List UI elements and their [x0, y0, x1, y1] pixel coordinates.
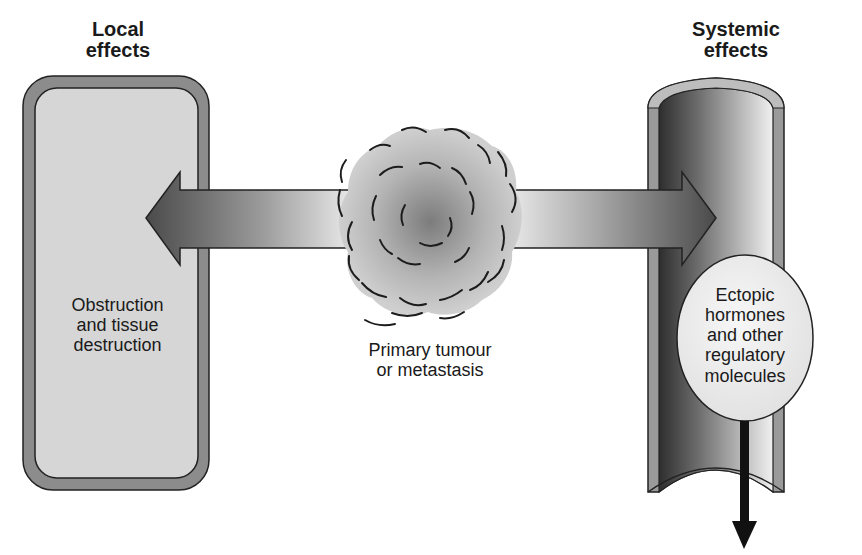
- tumour-mass-icon: [338, 127, 521, 325]
- tumour-label-line1: Primary tumour: [345, 340, 515, 360]
- arrow-left-icon: [146, 172, 355, 265]
- local-effects-line2: effects: [58, 40, 178, 61]
- systemic-effects-line1: Systemic: [676, 19, 796, 40]
- systemic-desc-line3: and other: [680, 325, 810, 345]
- arrow-right-icon: [505, 172, 716, 265]
- tissue-organ-icon: [23, 76, 209, 490]
- systemic-effects-heading: Systemic effects: [676, 19, 796, 61]
- local-effects-heading: Local effects: [58, 19, 178, 61]
- diagram-canvas: [0, 0, 862, 555]
- systemic-effects-line2: effects: [676, 40, 796, 61]
- systemic-desc-line5: molecules: [680, 366, 810, 386]
- tumour-label-line2: or metastasis: [345, 360, 515, 380]
- systemic-desc-line2: hormones: [680, 305, 810, 325]
- tumour-label: Primary tumour or metastasis: [345, 340, 515, 380]
- local-effects-description: Obstruction and tissue destruction: [40, 295, 195, 355]
- local-effects-line1: Local: [58, 19, 178, 40]
- systemic-desc-line1: Ectopic: [680, 285, 810, 305]
- systemic-effects-description: Ectopic hormones and other regulatory mo…: [680, 285, 810, 386]
- local-desc-line2: and tissue: [40, 315, 195, 335]
- local-desc-line3: destruction: [40, 335, 195, 355]
- local-desc-line1: Obstruction: [40, 295, 195, 315]
- systemic-desc-line4: regulatory: [680, 345, 810, 365]
